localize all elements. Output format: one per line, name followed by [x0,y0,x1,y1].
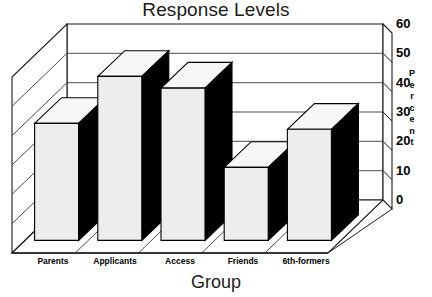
chart-container: Response Levels [0,0,432,297]
x-tick-6th-formers: 6th-formers [263,257,349,266]
y-axis-title: P e r c e n t [404,68,420,149]
bar-front-face [287,129,331,240]
y-tick-50: 50 [396,46,410,59]
y-axis-title-letter: c [404,103,420,115]
bar-front-face [161,88,205,240]
y-axis-title-letter: n [404,126,420,138]
bar-friends[interactable] [224,142,295,241]
y-tick-0: 0 [396,193,403,206]
bar-6th-formers[interactable] [287,104,358,241]
y-axis-title-letter: e [404,80,420,92]
y-axis-title-letter: t [404,137,420,149]
bar-parents[interactable] [35,98,106,241]
y-tick-60: 60 [396,17,410,30]
bar-access[interactable] [161,62,232,240]
bar-front-face [98,76,142,240]
chart-plot-area [0,0,432,297]
y-axis-title-letter: r [404,91,420,103]
y-tick-10: 10 [396,164,410,177]
bar-applicants[interactable] [98,51,169,241]
y-axis-title-letter: P [404,68,420,80]
bar-front-face [35,123,79,240]
x-axis-title: Group [0,272,432,293]
y-axis-title-letter: e [404,114,420,126]
bar-front-face [224,167,268,240]
